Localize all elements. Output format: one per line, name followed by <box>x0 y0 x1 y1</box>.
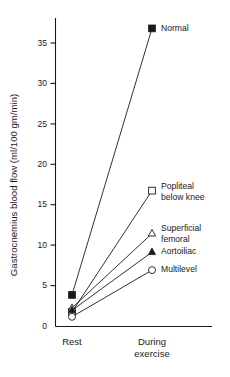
line-chart-canvas: Gastrocnemius blood flow (ml/100 gm/min)… <box>0 0 230 377</box>
y-tick-35: 35 <box>38 38 56 48</box>
x-category-label-rest: Rest <box>62 336 82 347</box>
series-aortoiliac-marker-exercise <box>148 248 155 255</box>
series-superficial-femoral-marker-exercise <box>148 230 155 237</box>
series-superficial-femoral-label-line1: Superficial <box>161 223 201 233</box>
series-multilevel-label-line1: Multilevel <box>161 264 197 274</box>
series-normal-marker-exercise <box>149 25 156 32</box>
series-superficial-femoral-label-line2: femoral <box>161 234 190 244</box>
y-tick-30: 30 <box>38 78 56 88</box>
y-tick-20: 20 <box>38 159 56 169</box>
x-axis-category-labels: Rest During exercise <box>62 336 169 359</box>
series-aortoiliac-line <box>72 252 152 310</box>
y-tick-label: 20 <box>38 159 48 169</box>
y-axis-title: Gastrocnemius blood flow (ml/100 gm/min) <box>8 94 19 276</box>
y-tick-label: 35 <box>38 38 48 48</box>
axes <box>56 18 213 327</box>
y-axis-ticks: 35 30 25 20 15 10 <box>38 38 56 331</box>
series-multilevel-marker-rest <box>69 313 76 320</box>
series-normal: Normal <box>69 23 189 299</box>
series-aortoiliac-label-line1: Aortoiliac <box>161 246 197 256</box>
x-category-label-exercise: exercise <box>134 348 169 359</box>
series-normal-marker-rest <box>69 292 76 299</box>
x-category-label-during: During <box>138 336 166 347</box>
series-multilevel-marker-exercise <box>149 267 156 274</box>
y-tick-label: 0 <box>42 321 47 331</box>
series-popliteal-marker-exercise <box>149 187 156 194</box>
y-tick-5: 5 <box>42 280 55 290</box>
series-normal-label-line1: Normal <box>161 23 189 33</box>
series-multilevel: Multilevel <box>69 264 197 320</box>
chart-figure: Gastrocnemius blood flow (ml/100 gm/min)… <box>0 0 230 377</box>
y-tick-label: 25 <box>38 119 48 129</box>
y-tick-label: 30 <box>38 78 48 88</box>
series-normal-line <box>72 28 152 295</box>
series-superficial-femoral-line <box>72 234 152 308</box>
series-popliteal-label-line2: below knee <box>161 192 205 202</box>
y-tick-15: 15 <box>38 199 56 209</box>
y-tick-10: 10 <box>38 240 56 250</box>
series-popliteal-label-line1: Popliteal <box>161 181 194 191</box>
y-tick-label: 15 <box>38 199 48 209</box>
y-tick-25: 25 <box>38 119 56 129</box>
series-aortoiliac: Aortoiliac <box>68 246 197 312</box>
y-axis-title-text: Gastrocnemius blood flow (ml/100 gm/min) <box>8 94 19 276</box>
y-tick-0: 0 <box>42 321 47 331</box>
y-tick-label: 5 <box>42 280 47 290</box>
y-tick-label: 10 <box>38 240 48 250</box>
